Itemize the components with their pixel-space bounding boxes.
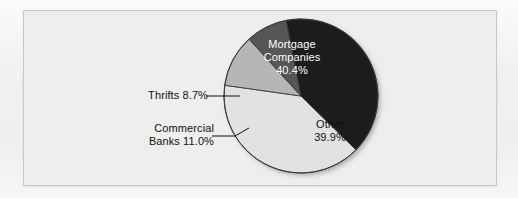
chart-page: Mortgage Companies 40.4% Other 39.9% Thr… bbox=[0, 0, 518, 198]
pie-chart: Mortgage Companies 40.4% Other 39.9% Thr… bbox=[0, 0, 518, 198]
slice-label-commercial-banks: Commercial Banks 11.0% bbox=[118, 122, 214, 148]
slice-label-thrifts: Thrifts 8.7% bbox=[112, 89, 208, 102]
pie-chart-svg bbox=[0, 0, 518, 198]
slice-label-other: Other 39.9% bbox=[285, 118, 375, 144]
slice-label-mortgage-companies: Mortgage Companies 40.4% bbox=[237, 38, 347, 77]
